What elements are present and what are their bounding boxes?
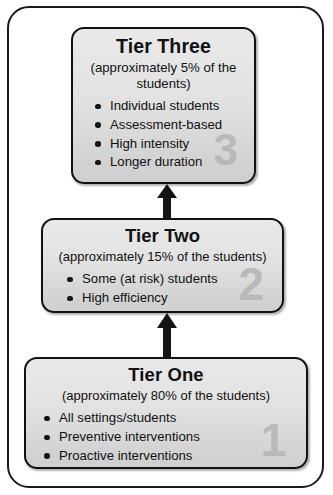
tier-two-title: Tier Two <box>43 226 282 246</box>
tiered-intervention-diagram: Tier Three (approximately 5% of the stud… <box>0 0 333 495</box>
tier-one-box: Tier One (approximately 80% of the stude… <box>24 357 308 469</box>
list-item: High efficiency <box>67 289 282 308</box>
tier-two-bullet-list: Some (at risk) students High efficiency <box>43 270 282 307</box>
list-item: Preventive interventions <box>44 428 306 447</box>
tier-one-bullet-list: All settings/students Preventive interve… <box>26 409 306 465</box>
tier-one-subtitle: (approximately 80% of the students) <box>26 388 306 403</box>
tier-three-title: Tier Three <box>73 36 254 57</box>
tier-three-box: Tier Three (approximately 5% of the stud… <box>71 27 256 184</box>
list-item: Proactive interventions <box>44 447 306 466</box>
list-item: All settings/students <box>44 409 306 428</box>
tier-three-bullet-list: Individual students Assessment-based Hig… <box>73 97 254 172</box>
tier-two-box: Tier Two (approximately 15% of the stude… <box>41 218 284 313</box>
tier-one-title: Tier One <box>26 365 306 385</box>
tier-three-subtitle: (approximately 5% of the students) <box>73 60 254 91</box>
list-item: Longer duration <box>95 153 254 172</box>
list-item: Individual students <box>95 97 254 116</box>
tier-two-subtitle: (approximately 15% of the students) <box>43 249 282 264</box>
list-item: High intensity <box>95 135 254 154</box>
list-item: Assessment-based <box>95 116 254 135</box>
list-item: Some (at risk) students <box>67 270 282 289</box>
arrow-up-icon-tier-one-to-two <box>154 313 180 357</box>
arrow-up-icon-tier-two-to-three <box>154 184 180 218</box>
